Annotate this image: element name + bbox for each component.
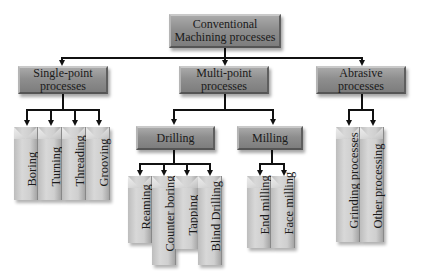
leaf-face-milling-label: Face milling <box>281 172 296 235</box>
leaf-grinding-processes: Grinding processes <box>336 127 360 242</box>
leaf-threading: Threading <box>62 127 86 200</box>
leaf-boring-label: Boring <box>24 152 39 187</box>
node-abrasive: Abrasive processes <box>316 66 406 94</box>
drilling-stem <box>173 150 175 163</box>
leaf-tapping: Tapping <box>175 176 199 249</box>
drilling-bus <box>139 163 210 165</box>
node-milling: Milling <box>237 126 303 150</box>
node-multi-point: Multi-point processes <box>179 66 269 94</box>
leaf-boring: Boring <box>14 127 38 200</box>
leaf-grinding-processes-label: Grinding processes <box>346 132 361 228</box>
leaf-reaming: Reaming <box>128 176 152 243</box>
leaf-grooving: Grooving <box>86 127 110 200</box>
arrow-drilling-icon <box>171 119 177 125</box>
root-stem <box>224 48 226 57</box>
arrow-milling-icon <box>270 119 276 125</box>
milling-stem <box>271 150 273 163</box>
leaf-turning-label: Turning <box>48 147 63 187</box>
level1-bus <box>61 57 362 59</box>
arrow-grooving-icon <box>96 120 102 126</box>
leaf-threading-label: Threading <box>72 135 87 186</box>
leaf-grooving-label: Grooving <box>96 139 111 187</box>
leaf-end-milling: End milling <box>247 176 271 248</box>
single-bus <box>26 109 99 111</box>
leaf-turning: Turning <box>38 127 62 200</box>
arrow-other-processing-icon <box>370 120 376 126</box>
root-node: Conventional Machining processes <box>169 14 281 48</box>
abrasive-bus <box>348 109 373 111</box>
multi-bus <box>173 109 273 111</box>
milling-bus <box>259 163 283 165</box>
node-single-point-label: Single-point processes <box>33 67 92 93</box>
multi-stem <box>224 94 226 109</box>
single-stem <box>62 94 64 109</box>
abrasive-stem <box>361 94 363 109</box>
node-single-point: Single-point processes <box>18 66 108 94</box>
leaf-blind-drilling-label: Blind Drilling <box>208 181 223 252</box>
leaf-reaming-label: Reaming <box>138 184 153 229</box>
root-node-label: Conventional Machining processes <box>175 18 276 44</box>
node-drilling-label: Drilling <box>157 132 195 145</box>
arrow-turning-icon <box>48 120 54 126</box>
node-drilling: Drilling <box>136 126 215 150</box>
arrow-grinding-icon <box>346 120 352 126</box>
leaf-blind-drilling: Blind Drilling <box>198 176 222 265</box>
arrow-threading-icon <box>72 120 78 126</box>
leaf-face-milling: Face milling <box>271 176 295 248</box>
leaf-end-milling-label: End milling <box>257 175 272 234</box>
leaf-other-processing-label: Other processing <box>370 143 385 228</box>
node-abrasive-label: Abrasive processes <box>338 67 384 93</box>
node-milling-label: Milling <box>252 132 288 145</box>
leaf-other-processing: Other processing <box>360 127 384 242</box>
node-multi-point-label: Multi-point processes <box>196 67 251 93</box>
leaf-counter-boring: Counter boring <box>152 176 176 265</box>
arrow-boring-icon <box>24 120 30 126</box>
